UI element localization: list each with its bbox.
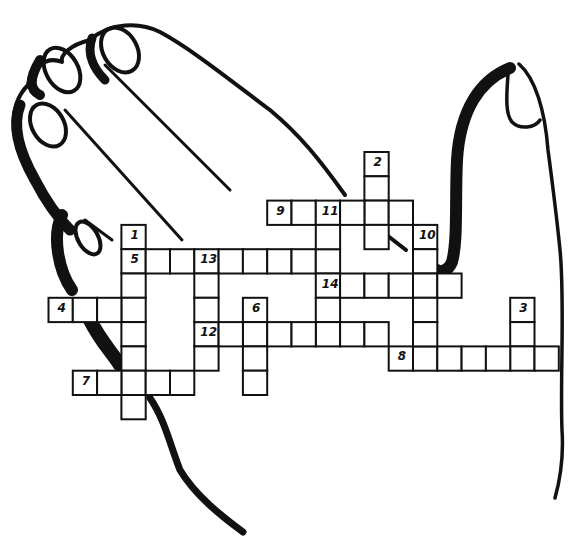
crossword-cell[interactable] [267, 249, 291, 273]
crossword-cell[interactable] [267, 322, 291, 346]
crossword-cell[interactable] [316, 249, 340, 273]
crossword-cell[interactable] [292, 201, 316, 225]
crossword-cell[interactable] [97, 298, 121, 322]
crossword-cell[interactable] [292, 249, 316, 273]
finger-shadow [32, 60, 40, 95]
crossword-cell[interactable] [510, 346, 534, 370]
clue-number-13: 13 [200, 252, 217, 266]
hands-drawing [14, 21, 562, 532]
crossword-cell[interactable] [389, 201, 413, 225]
thumb-shadow [437, 68, 510, 271]
clue-number-2: 2 [373, 155, 381, 169]
crossword-cell[interactable] [486, 346, 510, 370]
crossword-cell[interactable] [340, 274, 364, 298]
clue-number-11: 11 [322, 204, 339, 218]
crossword-cell[interactable] [194, 274, 218, 298]
clue-number-14: 14 [322, 277, 339, 291]
crossword-cell[interactable] [243, 346, 267, 370]
clue-number-12: 12 [200, 325, 217, 339]
fingernail [23, 97, 74, 153]
clue-number-5: 5 [130, 252, 138, 266]
crossword-cell[interactable] [535, 346, 559, 370]
crossword-cell[interactable] [437, 346, 461, 370]
crossword-cell[interactable] [340, 322, 364, 346]
crossword-cell[interactable] [146, 371, 170, 395]
crossword-cell[interactable] [413, 298, 437, 322]
crossword-cell[interactable] [364, 176, 388, 200]
clue-number-7: 7 [82, 374, 91, 388]
crossword-cell[interactable] [316, 298, 340, 322]
crossword-illustration: 1234567891011121314 [0, 0, 584, 539]
crossword-cell[interactable] [243, 371, 267, 395]
crossword-cell[interactable] [121, 298, 145, 322]
crossword-cell[interactable] [243, 322, 267, 346]
palm-outline [150, 398, 243, 532]
fingernail [36, 41, 88, 99]
crossword-cell[interactable] [146, 249, 170, 273]
crossword-cell[interactable] [340, 201, 364, 225]
crossword-cell[interactable] [121, 395, 145, 419]
crossword-cell[interactable] [73, 298, 97, 322]
crossword-cell[interactable] [364, 322, 388, 346]
clue-number-8: 8 [398, 349, 406, 363]
crossword-cell[interactable] [462, 346, 486, 370]
crossword-cell[interactable] [364, 201, 388, 225]
crossword-cell[interactable] [121, 322, 145, 346]
finger-line [388, 236, 406, 250]
clue-number-10: 10 [419, 228, 436, 242]
crossword-cell[interactable] [292, 322, 316, 346]
crossword-cell[interactable] [437, 274, 461, 298]
crossword-cell[interactable] [316, 225, 340, 249]
finger-line [105, 65, 230, 190]
crossword-cell[interactable] [510, 322, 534, 346]
clue-number-1: 1 [130, 228, 138, 242]
crossword-cell[interactable] [413, 346, 437, 370]
crossword-cell[interactable] [364, 274, 388, 298]
crossword-cell[interactable] [243, 249, 267, 273]
crossword-cell[interactable] [219, 249, 243, 273]
crossword-cell[interactable] [194, 346, 218, 370]
crossword-cell[interactable] [413, 322, 437, 346]
crossword-cell[interactable] [413, 274, 437, 298]
thumb-outline [519, 64, 563, 498]
crossword-cell[interactable] [170, 371, 194, 395]
crossword-cell[interactable] [194, 298, 218, 322]
crossword-cell[interactable] [413, 249, 437, 273]
finger-shadow [90, 320, 120, 365]
crossword-grid: 1234567891011121314 [49, 152, 559, 419]
left-hand-outline [90, 25, 345, 195]
crossword-cell[interactable] [316, 322, 340, 346]
crossword-cell[interactable] [170, 249, 194, 273]
crossword-cell[interactable] [121, 274, 145, 298]
crossword-cell[interactable] [97, 371, 121, 395]
crossword-cell[interactable] [219, 322, 243, 346]
crossword-cell[interactable] [121, 371, 145, 395]
clue-number-9: 9 [276, 204, 284, 218]
crossword-cell[interactable] [389, 274, 413, 298]
thumbnail [507, 75, 540, 127]
crossword-cell[interactable] [364, 225, 388, 249]
clue-number-6: 6 [252, 301, 260, 315]
clue-number-3: 3 [519, 301, 527, 315]
clue-number-4: 4 [57, 301, 66, 315]
crossword-cell[interactable] [121, 346, 145, 370]
